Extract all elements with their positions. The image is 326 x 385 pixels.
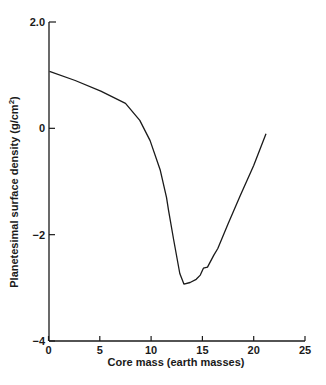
plot-area: 2.00−2−4 0510152025 Core mass (earth mas…	[7, 16, 311, 368]
x-tick-label: 15	[196, 344, 208, 356]
x-ticks: 0510152025	[45, 336, 311, 356]
y-axis-title-main: Planetesimal surface density (g/cm	[8, 104, 20, 288]
data-line	[50, 71, 267, 284]
y-tick-label: 2.0	[30, 16, 45, 28]
y-tick-label: −2	[32, 229, 45, 241]
y-axis-title-suffix: )	[8, 96, 20, 100]
y-ticks: 2.00−2−4	[30, 16, 56, 347]
x-tick-label: 10	[145, 344, 157, 356]
y-tick-label: −4	[32, 335, 45, 347]
x-axis-title: Core mass (earth masses)	[108, 356, 245, 368]
x-tick-label: 25	[299, 344, 311, 356]
y-tick-label: 0	[39, 122, 45, 134]
x-tick-label: 20	[248, 344, 260, 356]
x-tick-label: 0	[45, 344, 51, 356]
chart: 2.00−2−4 0510152025 Core mass (earth mas…	[0, 0, 326, 385]
y-axis-title: Planetesimal surface density (g/cm2)	[7, 96, 20, 288]
x-tick-label: 5	[97, 344, 103, 356]
